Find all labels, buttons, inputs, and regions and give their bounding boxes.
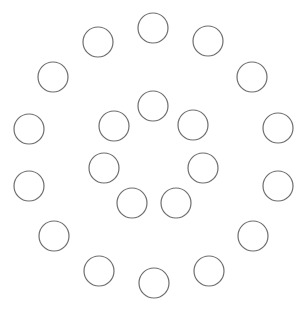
background (0, 0, 305, 311)
outer-ring-circle-4 (263, 113, 293, 143)
outer-ring-circle-11 (14, 171, 44, 201)
outer-ring-circle-9 (84, 256, 114, 286)
outer-ring-circle-5 (263, 171, 293, 201)
outer-ring-circle-3 (237, 62, 267, 92)
inner-ring-circle-6 (89, 153, 119, 183)
inner-ring-circle-3 (188, 153, 218, 183)
outer-ring-circle-1 (138, 13, 168, 43)
inner-ring-circle-1 (138, 91, 168, 121)
outer-ring-circle-14 (83, 27, 113, 57)
inner-ring-circle-4 (161, 188, 191, 218)
outer-ring-circle-13 (38, 62, 68, 92)
inner-ring-circle-7 (99, 111, 129, 141)
inner-ring-circle-5 (117, 188, 147, 218)
outer-ring-circle-2 (193, 26, 223, 56)
inner-ring-circle-2 (178, 110, 208, 140)
outer-ring-circle-12 (14, 114, 44, 144)
concentric-circle-rings-diagram (0, 0, 305, 311)
outer-ring-circle-7 (194, 256, 224, 286)
outer-ring-circle-6 (238, 221, 268, 251)
outer-ring-circle-8 (139, 268, 169, 298)
outer-ring-circle-10 (39, 221, 69, 251)
